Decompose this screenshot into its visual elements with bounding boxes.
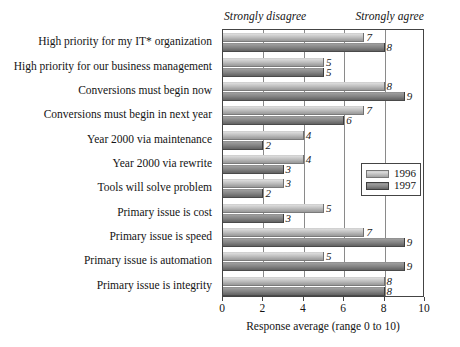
bar-row: 78 [223, 32, 423, 52]
legend-swatch-1996 [366, 170, 389, 178]
category-label: Primary issue is integrity [97, 279, 212, 291]
x-tick-label: 8 [381, 302, 387, 315]
category-label: Year 2000 via rewrite [113, 157, 212, 169]
category-label: Tools will solve problem [97, 181, 212, 193]
category-label: High priority for my IT* organization [38, 35, 212, 47]
bar-row: 89 [223, 81, 423, 101]
x-tick-label: 6 [340, 302, 346, 315]
x-tick-label: 10 [418, 302, 430, 315]
bar-1997 [223, 287, 385, 296]
bar-1996 [223, 179, 284, 188]
bar-value-label: 6 [346, 115, 352, 125]
bar-1997 [223, 165, 284, 174]
bar-1997 [223, 238, 405, 247]
x-tick [222, 297, 223, 301]
bar-value-label: 2 [265, 188, 271, 198]
bar-1997 [223, 189, 263, 198]
bar-value-label: 7 [366, 105, 372, 115]
legend-label-1997: 1997 [394, 180, 416, 191]
x-tick-label: 0 [219, 302, 225, 315]
x-axis-title: Response average (range 0 to 10) [246, 320, 400, 332]
bar-row: 53 [223, 203, 423, 223]
bar-1997 [223, 262, 405, 271]
bar-value-label: 8 [387, 81, 393, 91]
bar-row: 79 [223, 227, 423, 247]
legend-label-1996: 1996 [394, 168, 416, 179]
x-tick [303, 297, 304, 301]
bar-value-label: 5 [326, 67, 332, 77]
category-axis-labels: High priority for my IT* organizationHig… [0, 29, 216, 297]
x-tick-label: 4 [300, 302, 306, 315]
x-tick-label: 2 [260, 302, 266, 315]
bar-1996 [223, 204, 324, 213]
bar-1996 [223, 252, 324, 261]
x-tick [424, 297, 425, 301]
bar-1996 [223, 131, 304, 140]
bar-1996 [223, 33, 364, 42]
category-label: High priority for our business managemen… [14, 60, 212, 72]
bar-value-label: 4 [306, 130, 312, 140]
bar-1996 [223, 228, 364, 237]
bar-value-label: 8 [387, 42, 393, 52]
bar-row: 55 [223, 57, 423, 77]
bar-chart-figure: Strongly disagree Strongly agree High pr… [0, 0, 460, 347]
legend-item-1996: 1996 [366, 168, 416, 179]
category-label: Primary issue is automation [84, 254, 212, 266]
bar-value-label: 9 [407, 237, 413, 247]
bar-1997 [223, 141, 263, 150]
bar-value-label: 5 [326, 203, 332, 213]
bar-row: 76 [223, 105, 423, 125]
bar-value-label: 9 [407, 91, 413, 101]
x-tick [384, 297, 385, 301]
bar-value-label: 7 [366, 227, 372, 237]
chart-legend: 1996 1997 [361, 163, 421, 196]
bar-value-label: 9 [407, 261, 413, 271]
bar-1997 [223, 68, 324, 77]
bar-1996 [223, 155, 304, 164]
bar-row: 88 [223, 276, 423, 296]
bar-value-label: 7 [366, 32, 372, 42]
scale-anchor-strongly-agree: Strongly agree [355, 10, 424, 22]
bar-row: 59 [223, 251, 423, 271]
legend-item-1997: 1997 [366, 180, 416, 191]
category-label: Conversions must begin in next year [44, 108, 212, 120]
bar-value-label: 3 [286, 164, 292, 174]
bar-value-label: 8 [387, 286, 393, 296]
category-label: Primary issue is speed [109, 230, 212, 242]
bar-1997 [223, 214, 284, 223]
bar-1996 [223, 58, 324, 67]
bar-value-label: 4 [306, 154, 312, 164]
category-label: Year 2000 via maintenance [87, 133, 212, 145]
bar-row: 42 [223, 130, 423, 150]
x-tick [343, 297, 344, 301]
category-label: Conversions must begin now [78, 84, 212, 96]
bar-1997 [223, 43, 385, 52]
bar-1996 [223, 106, 364, 115]
bar-value-label: 5 [326, 251, 332, 261]
bar-1997 [223, 92, 405, 101]
category-label: Primary issue is cost [117, 206, 212, 218]
bar-1997 [223, 116, 344, 125]
bar-1996 [223, 82, 385, 91]
bar-value-label: 2 [265, 140, 271, 150]
bar-1996 [223, 277, 385, 286]
x-tick [262, 297, 263, 301]
bar-value-label: 3 [286, 213, 292, 223]
legend-swatch-1997 [366, 182, 389, 190]
scale-anchor-strongly-disagree: Strongly disagree [224, 10, 306, 22]
bar-value-label: 3 [286, 178, 292, 188]
